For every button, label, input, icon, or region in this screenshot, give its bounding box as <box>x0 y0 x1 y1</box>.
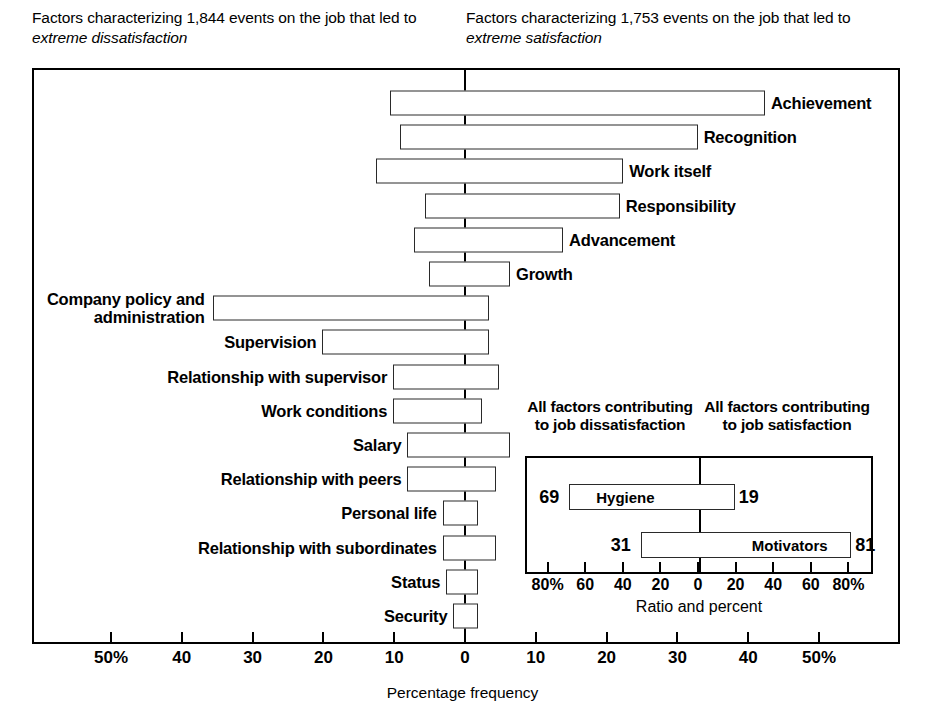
factor-bar[interactable] <box>393 398 482 423</box>
inset-headers: All factors contributing to job dissatis… <box>522 398 876 454</box>
inset-x-axis-tick-label: 40 <box>764 576 782 594</box>
x-axis-tick <box>110 632 112 644</box>
bar-row: Responsibility <box>34 192 898 220</box>
inset-x-axis-tick <box>659 562 661 574</box>
factor-label: Work itself <box>629 162 711 181</box>
x-axis-tick-label: 40 <box>172 648 191 668</box>
x-axis-tick <box>464 632 466 644</box>
factor-bar[interactable] <box>400 125 697 150</box>
inset-value-right: 81 <box>855 535 875 556</box>
inset-x-axis-tick-label: 60 <box>802 576 820 594</box>
x-axis-tick <box>535 632 537 644</box>
bar-row: Achievement <box>34 89 898 117</box>
x-axis-tick-label: 30 <box>243 648 262 668</box>
x-axis-tick-label: 10 <box>526 648 545 668</box>
inset-x-axis-tick-label: 20 <box>727 576 745 594</box>
inset-bar-label: Motivators <box>752 537 828 554</box>
factor-bar[interactable] <box>425 193 620 218</box>
inset-header-satisfaction: All factors contributing to job satisfac… <box>698 398 876 454</box>
header-dissatisfaction-prefix: Factors characterizing 1,844 events on t… <box>32 9 417 26</box>
bar-row: Growth <box>34 260 898 288</box>
factor-label: Security <box>33 607 447 626</box>
inset-x-axis-tick-label: 60 <box>576 576 594 594</box>
x-axis-tick <box>252 632 254 644</box>
factor-label: Salary <box>0 436 401 455</box>
x-axis-tick-label: 20 <box>597 648 616 668</box>
factor-label: Company policy and administration <box>23 290 205 326</box>
factor-label: Supervision <box>0 333 316 352</box>
x-axis-tick <box>747 632 749 644</box>
inset-x-axis-tick <box>810 562 812 574</box>
inset-x-axis-title: Ratio and percent <box>522 598 876 616</box>
inset-factor-bar[interactable]: Hygiene <box>569 484 734 510</box>
factor-bar[interactable] <box>407 467 496 492</box>
header-satisfaction-emphasis: extreme satisfaction <box>466 29 602 46</box>
x-axis-tick-label: 0 <box>460 648 469 668</box>
factor-label: Achievement <box>771 94 872 113</box>
header-satisfaction-prefix: Factors characterizing 1,753 events on t… <box>466 9 851 26</box>
factor-bar[interactable] <box>446 569 478 594</box>
x-axis-tick <box>606 632 608 644</box>
inset-x-axis-tick <box>735 562 737 574</box>
header-dissatisfaction: Factors characterizing 1,844 events on t… <box>32 8 466 64</box>
x-axis-tick-label: 30 <box>668 648 687 668</box>
x-axis-tick-label: 10 <box>385 648 404 668</box>
factor-bar[interactable] <box>213 296 489 321</box>
factor-bar[interactable] <box>429 262 510 287</box>
factor-bar[interactable] <box>322 330 488 355</box>
factor-bar[interactable] <box>376 159 624 184</box>
bar-row: Advancement <box>34 226 898 254</box>
x-axis-tick-label: 40 <box>739 648 758 668</box>
factor-label: Personal life <box>23 504 437 523</box>
x-axis-tick-label: 50% <box>94 648 128 668</box>
x-axis-tick <box>818 632 820 644</box>
factor-bar[interactable] <box>443 535 496 560</box>
inset-value-left: 69 <box>539 487 559 508</box>
inset-value-left: 31 <box>611 535 631 556</box>
chart-headers: Factors characterizing 1,844 events on t… <box>32 8 900 64</box>
inset-plot-area: Hygiene6919Motivators3181 <box>525 456 873 574</box>
factor-bar[interactable] <box>407 433 510 458</box>
inset-value-right: 19 <box>739 487 759 508</box>
factor-label: Recognition <box>704 128 797 147</box>
x-axis-tick <box>322 632 324 644</box>
x-axis-tick <box>181 632 183 644</box>
inset-x-axis-tick <box>622 562 624 574</box>
inset-x-axis-tick-label: 80% <box>532 576 564 594</box>
factor-bar[interactable] <box>453 604 478 629</box>
x-axis: 50%4030201001020304050% <box>32 644 900 674</box>
x-axis-tick <box>676 632 678 644</box>
inset-panel: All factors contributing to job dissatis… <box>522 398 876 620</box>
x-axis-tick <box>393 632 395 644</box>
inset-x-axis-tick-label: 80% <box>832 576 864 594</box>
inset-x-axis-tick <box>847 562 849 574</box>
factor-bar[interactable] <box>443 501 478 526</box>
factor-label: Advancement <box>569 230 675 249</box>
inset-x-axis-tick <box>584 562 586 574</box>
x-axis-title: Percentage frequency <box>0 684 925 702</box>
inset-factor-bar[interactable]: Motivators <box>641 532 852 558</box>
bar-row: Recognition <box>34 123 898 151</box>
factor-bar[interactable] <box>414 227 563 252</box>
bar-row: Supervision <box>34 328 898 356</box>
inset-x-axis-tick <box>547 562 549 574</box>
factor-label: Relationship with subordinates <box>23 538 437 557</box>
inset-x-axis-tick-label: 20 <box>651 576 669 594</box>
factor-label: Responsibility <box>626 196 736 215</box>
bar-row: Company policy and administration <box>34 294 898 322</box>
inset-x-axis-tick-label: 40 <box>614 576 632 594</box>
bar-row: Work itself <box>34 157 898 185</box>
inset-x-axis-tick-label: 0 <box>694 576 703 594</box>
header-dissatisfaction-emphasis: extreme dissatisfaction <box>32 29 187 46</box>
inset-bar-row: Hygiene6919 <box>527 480 871 514</box>
x-axis-tick-label: 50% <box>802 648 836 668</box>
factor-bar[interactable] <box>393 364 499 389</box>
inset-header-dissatisfaction: All factors contributing to job dissatis… <box>522 398 698 454</box>
inset-x-axis-tick <box>697 562 699 574</box>
factor-label: Work conditions <box>0 401 387 420</box>
factor-bar[interactable] <box>390 91 765 116</box>
header-satisfaction: Factors characterizing 1,753 events on t… <box>466 8 900 64</box>
inset-x-axis-tick <box>772 562 774 574</box>
factor-label: Relationship with peers <box>0 470 401 489</box>
bar-row: Relationship with supervisor <box>34 363 898 391</box>
